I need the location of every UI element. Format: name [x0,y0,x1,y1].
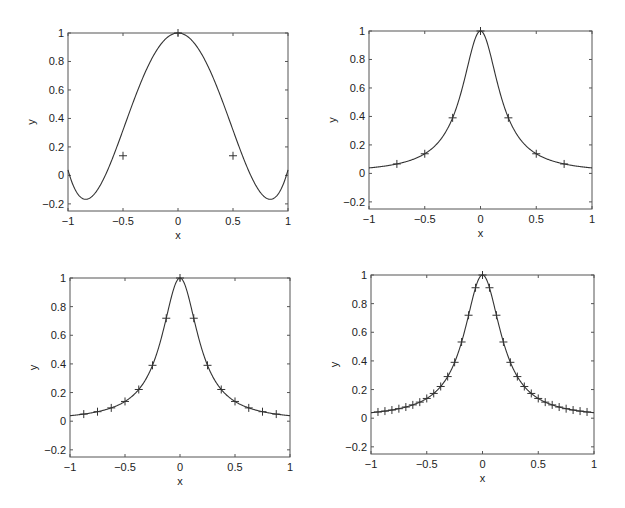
y-tick-label: 0.8 [49,55,64,67]
node-marker [190,314,198,322]
interpolant-curve [70,278,290,416]
y-tick-label: 0.8 [51,301,66,313]
node-marker [506,358,514,366]
x-axis-label: x [175,229,181,241]
x-tick-label: 0.5 [227,461,242,473]
node-marker [504,114,512,122]
node-marker [451,358,459,366]
y-tick-label: 0 [58,169,64,181]
x-tick-label: 0 [175,215,181,227]
x-tick-label: −0.5 [416,458,438,470]
node-marker [231,397,239,405]
axes-box [70,278,290,457]
y-tick-label: 0.6 [49,84,64,96]
x-tick-label: 0.5 [531,458,546,470]
x-tick-label: 0 [177,461,183,473]
x-tick-label: 1 [591,458,597,470]
axes-box [371,275,594,454]
y-tick-label: 0.4 [350,110,365,122]
y-tick-label: −0.2 [345,441,367,453]
subplot-top-right: −1−0.500.51−0.200.20.40.60.81xy [326,25,595,239]
y-tick-label: 0.2 [49,141,64,153]
node-marker [534,394,542,402]
subplot-bottom-right: −1−0.500.51−0.200.20.40.60.81xy [328,269,597,484]
node-marker [94,408,102,416]
node-marker [560,160,568,168]
node-marker [458,338,466,346]
x-tick-label: 1 [287,461,293,473]
node-marker [562,405,570,413]
x-tick-label: −1 [64,461,77,473]
interpolant-curve [371,275,594,413]
y-tick-label: 0.4 [352,355,367,367]
y-axis-label: y [328,361,340,367]
y-tick-label: −0.2 [343,196,365,208]
node-marker [576,407,584,415]
node-marker [245,404,253,412]
node-marker [121,397,129,405]
node-marker [393,160,401,168]
x-tick-label: 0 [477,213,483,225]
node-marker [485,284,493,292]
y-tick-label: 0.2 [350,139,365,151]
y-tick-label: 0.6 [352,326,367,338]
node-marker [449,114,457,122]
x-tick-label: 0.5 [529,213,544,225]
x-tick-label: −0.5 [114,461,136,473]
x-tick-label: −1 [365,458,378,470]
x-tick-label: 1 [589,213,595,225]
y-axis-label: y [25,119,37,125]
figure: −1−0.500.51−0.200.20.40.60.81xy −1−0.500… [0,0,625,508]
y-tick-label: 1 [58,27,64,39]
subplot-bottom-left: −1−0.500.51−0.200.20.40.60.81xy [27,272,293,487]
node-marker [162,314,170,322]
x-tick-label: −1 [363,213,376,225]
node-marker [80,410,88,418]
x-tick-label: 0.5 [225,215,240,227]
y-axis-label: y [326,117,338,123]
node-marker [555,403,563,411]
node-marker [272,410,280,418]
y-tick-label: 0.8 [350,53,365,65]
node-marker [402,403,410,411]
node-marker [444,373,452,381]
y-tick-label: 1 [361,269,367,281]
node-marker [472,284,480,292]
y-tick-label: 0 [359,167,365,179]
y-tick-label: −0.2 [44,444,66,456]
y-tick-label: 0.4 [51,358,66,370]
interpolant-curve [369,31,592,168]
node-marker [119,152,127,160]
node-marker [204,361,212,369]
y-tick-label: 0 [60,415,66,427]
node-marker [149,361,157,369]
node-marker [381,407,389,415]
y-tick-label: 0 [361,412,367,424]
y-tick-label: 0.2 [51,387,66,399]
x-axis-label: x [177,475,183,487]
node-marker [583,408,591,416]
node-marker [532,150,540,158]
x-axis-label: x [478,227,484,239]
y-tick-label: 0.6 [51,329,66,341]
y-tick-label: 0.8 [352,298,367,310]
node-marker [107,404,115,412]
node-marker [423,394,431,402]
node-marker [513,373,521,381]
node-marker [374,408,382,416]
x-tick-label: 0 [479,458,485,470]
x-tick-label: −1 [62,215,75,227]
y-tick-label: 1 [60,272,66,284]
y-tick-label: 0.2 [352,384,367,396]
node-marker [569,406,577,414]
node-marker [259,408,267,416]
subplot-top-left: −1−0.500.51−0.200.20.40.60.81xy [25,27,291,241]
y-tick-label: −0.2 [42,198,64,210]
node-marker [388,406,396,414]
interpolant-curve [68,33,288,199]
x-tick-label: 1 [285,215,291,227]
axes-box [369,31,592,209]
node-marker [465,311,473,319]
node-marker [416,398,424,406]
node-marker [499,338,507,346]
